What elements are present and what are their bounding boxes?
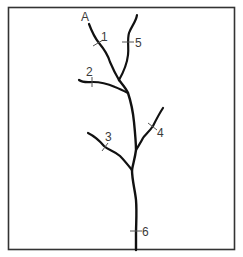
diagram-frame: A 1 2 3 4 5 6 xyxy=(0,0,243,257)
diagram-border xyxy=(9,8,235,250)
point-label-4: 4 xyxy=(157,126,164,140)
point-label-1: 1 xyxy=(101,30,108,44)
point-label-6: 6 xyxy=(142,225,149,239)
point-label-5: 5 xyxy=(135,36,142,50)
stream-network-diagram: A 1 2 3 4 5 6 xyxy=(0,0,243,257)
point-label-2: 2 xyxy=(86,65,93,79)
tick-4 xyxy=(148,123,157,130)
source-label-a: A xyxy=(81,10,89,24)
point-label-3: 3 xyxy=(105,130,112,144)
main-stem-lower xyxy=(132,170,136,250)
